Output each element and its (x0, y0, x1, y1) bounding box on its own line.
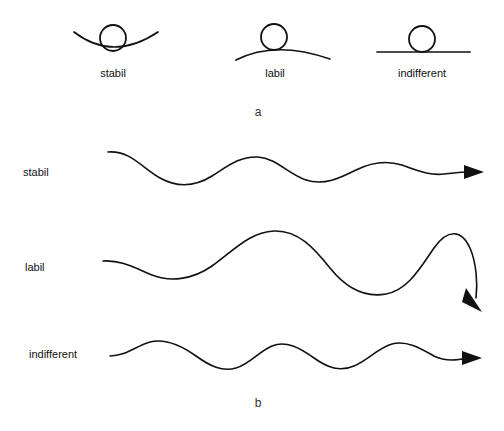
arrowhead-right-stable (464, 165, 484, 179)
label-neutral-a: indifferent (398, 68, 446, 79)
stable-equilibrium-figure (74, 25, 158, 51)
label-stable-b: stabil (23, 167, 49, 178)
diagram-canvas (0, 0, 504, 431)
ball-icon-neutral (409, 26, 435, 52)
panel-a-graphics (74, 24, 470, 60)
growing-wave-figure (103, 231, 482, 312)
panel-letter-b: b (255, 397, 262, 409)
damped-wave-figure (108, 152, 484, 185)
panel-b-graphics (103, 152, 484, 369)
arrowhead-downright-unstable (462, 288, 482, 312)
label-stable-a: stabil (100, 68, 126, 79)
constant-wave-figure (110, 341, 482, 369)
constant-wave-path (110, 341, 472, 369)
label-neutral-b: indifferent (29, 349, 77, 360)
damped-wave-path (108, 152, 474, 185)
growing-wave-path (103, 231, 477, 298)
unstable-equilibrium-figure (236, 24, 330, 60)
valley-surface-path (74, 32, 158, 47)
stability-diagram: stabil labil indifferent a stabil labil … (0, 0, 504, 431)
hill-surface-path (236, 50, 330, 60)
neutral-equilibrium-figure (377, 26, 470, 52)
panel-letter-a: a (255, 106, 262, 118)
label-unstable-a: labil (265, 68, 285, 79)
ball-icon-unstable (261, 24, 287, 50)
label-unstable-b: labil (25, 262, 45, 273)
arrowhead-right-neutral (462, 351, 482, 365)
